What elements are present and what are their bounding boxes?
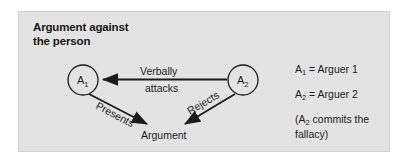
- node-a1-subscript: 1: [84, 80, 88, 89]
- argument-node-label: Argument: [141, 129, 187, 141]
- legend-row-fallacy-note: (A2 commits the fallacy): [295, 113, 390, 141]
- legend-symbol-a2: A: [295, 88, 302, 100]
- legend-note-prefix: (A: [295, 113, 306, 125]
- legend-subscript-a1: 1: [302, 68, 306, 77]
- legend-row-arguer-1: A1 = Arguer 1: [295, 63, 390, 77]
- legend-symbol-a1: A: [295, 63, 302, 75]
- figure-container: Argument against the person A1 A2 Verbal…: [0, 0, 411, 166]
- legend: A1 = Arguer 1 A2 = Arguer 2 (A2 commits …: [295, 63, 390, 141]
- node-a2-subscript: 2: [244, 80, 248, 89]
- node-a1-label: A1: [77, 74, 89, 89]
- edge-verbally-attacks-label-line-2: attacks: [145, 82, 178, 94]
- legend-note-subscript: 2: [306, 118, 310, 127]
- edge-presents-label: Presents: [94, 99, 136, 129]
- legend-text-a2: = Arguer 2: [306, 88, 358, 100]
- edge-verbally-attacks-label-line-1: Verbally: [140, 65, 178, 77]
- legend-text-a1: = Arguer 1: [306, 63, 358, 75]
- node-a2-label: A2: [237, 74, 249, 89]
- legend-row-arguer-2: A2 = Arguer 2: [295, 88, 390, 102]
- legend-subscript-a2: 2: [302, 93, 306, 102]
